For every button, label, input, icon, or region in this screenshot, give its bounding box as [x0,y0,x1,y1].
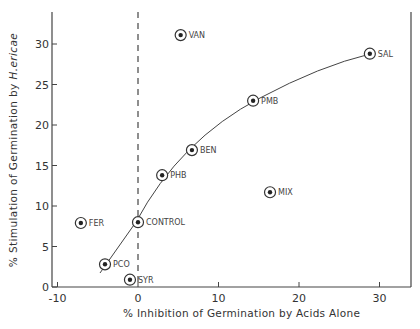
point-label: CONTROL [146,218,186,227]
y-ticks: 051015202530 [35,38,57,294]
point-label: FER [89,219,105,228]
point-dot-icon [160,173,164,177]
data-point: PCO [99,259,129,270]
point-dot-icon [268,190,272,194]
y-axis-label-species: H.ericae [7,33,19,80]
point-dot-icon [251,99,255,103]
fit-curve [100,54,370,273]
data-point: VAN [175,30,205,41]
point-dot-icon [128,278,132,282]
x-axis-label: % Inhibition of Germination by Acids Alo… [123,307,360,319]
y-tick-label: 15 [35,160,49,173]
point-dot-icon [368,52,372,56]
point-label: BEN [200,146,217,155]
x-tick-label: 20 [292,292,306,305]
y-tick-label: 5 [42,241,49,254]
y-axis-label: % Stimulation of Germination by H.ericae [7,33,19,267]
x-tick-label: 10 [212,292,226,305]
point-label: PCO [113,260,130,269]
data-point: PHB [157,170,187,181]
data-point: SAL [364,48,393,59]
x-tick-label: -10 [49,292,67,305]
point-label: PMB [261,97,278,106]
x-tick-label: 30 [373,292,387,305]
y-tick-label: 20 [35,119,49,132]
point-label: SYR [138,276,154,285]
data-point: MIX [265,187,294,198]
y-tick-label: 30 [35,38,49,51]
point-label: SAL [378,50,394,59]
data-point: SYR [124,274,153,285]
point-dot-icon [136,220,140,224]
y-tick-label: 25 [35,79,49,92]
point-dot-icon [79,221,83,225]
point-dot-icon [190,148,194,152]
scatter-chart: 051015202530 -100102030 VANSALPMBBENPHBM… [0,0,420,329]
point-label: VAN [189,31,205,40]
y-axis-label-text: % Stimulation of Germination by [7,83,19,267]
x-ticks: -100102030 [49,282,387,305]
data-points: VANSALPMBBENPHBMIXFERCONTROLPCOSYR [75,30,393,286]
y-tick-label: 10 [35,200,49,213]
x-tick-label: 0 [135,292,142,305]
data-point: BEN [186,145,216,156]
data-point: FER [75,218,104,229]
point-dot-icon [103,262,107,266]
data-point: PMB [248,95,279,106]
point-dot-icon [178,33,182,37]
axes [52,12,411,287]
point-label: MIX [278,188,293,197]
data-point: CONTROL [133,217,186,228]
point-label: PHB [170,171,186,180]
